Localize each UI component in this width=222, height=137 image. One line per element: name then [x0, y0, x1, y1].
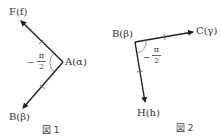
diagram-canvas	[0, 0, 222, 137]
equal-mark-bc	[164, 34, 165, 40]
angle-fraction-fig2: π 2	[152, 46, 161, 65]
angle-sign-fig2: −	[143, 53, 151, 62]
angle-denominator-fig1: 2	[37, 63, 46, 71]
angle-fraction-fig1: π 2	[37, 52, 46, 71]
angle-numerator-fig1: π	[37, 52, 46, 60]
angle-arc-a	[50, 53, 54, 72]
angle-denominator-fig2: 2	[152, 57, 161, 65]
label-c: C(γ)	[196, 26, 217, 36]
label-f: F(f)	[9, 7, 27, 17]
vector-bh-arrow	[135, 42, 145, 102]
angle-numerator-fig2: π	[152, 46, 161, 54]
caption-figure1: 図 1	[42, 126, 60, 135]
vector-bc-arrow	[135, 32, 193, 42]
label-b-fig1: B(β)	[9, 112, 30, 122]
caption-figure2: 図 2	[176, 124, 194, 133]
label-h: H(h)	[137, 108, 160, 118]
angle-sign-fig1: −	[27, 58, 35, 67]
equal-mark-bh	[137, 71, 143, 72]
label-a: A(α)	[65, 57, 87, 67]
label-b-fig2: B(β)	[112, 29, 133, 39]
figure2-diagram	[135, 32, 193, 102]
